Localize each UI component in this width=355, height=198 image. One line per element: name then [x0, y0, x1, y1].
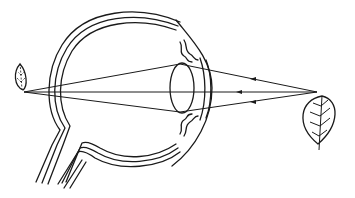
- arrowhead-middle: [236, 90, 242, 94]
- arrowhead-lower: [250, 100, 256, 104]
- sclera-outline: [36, 12, 180, 182]
- object-leaf: [303, 96, 335, 150]
- cornea: [172, 20, 212, 166]
- lens: [170, 63, 194, 113]
- ray-lower-inside: [24, 92, 180, 112]
- ray-upper: [180, 64, 317, 92]
- iris: [180, 40, 198, 136]
- cornea-inner-2: [200, 58, 205, 120]
- cornea-inner: [206, 60, 211, 118]
- arrowhead-upper: [250, 77, 256, 81]
- retinal-image-leaf: [15, 62, 26, 90]
- ray-lower: [180, 92, 317, 112]
- cornea-outer: [172, 20, 212, 166]
- eyeball: [36, 12, 180, 184]
- eye-image-formation-diagram: [0, 0, 355, 198]
- image-leaf-veins: [17, 72, 25, 82]
- ray-upper-inside: [24, 64, 180, 92]
- diagram-canvas: [0, 0, 355, 198]
- object-leaf-outline: [303, 96, 335, 144]
